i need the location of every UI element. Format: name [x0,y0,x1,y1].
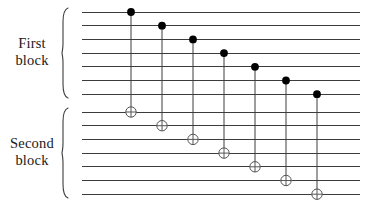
brace-first-block [62,8,68,98]
cnot-6-control-dot-icon[interactable] [282,77,290,85]
cnot-gates [126,8,322,199]
brace-second-block [62,108,68,198]
circuit-canvas [0,0,371,202]
cnot-3-control-dot-icon[interactable] [189,36,197,44]
cnot-5-control-dot-icon[interactable] [251,63,259,71]
cnot-4-control-dot-icon[interactable] [220,49,228,57]
gate-cnot-5[interactable] [250,63,260,172]
gate-cnot-4[interactable] [219,49,229,158]
gate-cnot-7[interactable] [312,90,322,199]
gate-cnot-2[interactable] [157,22,167,131]
quantum-circuit-figure: First block Second block [0,0,371,202]
gate-cnot-3[interactable] [188,36,198,145]
qubit-wires [82,12,360,194]
gate-cnot-6[interactable] [281,77,291,186]
cnot-7-control-dot-icon[interactable] [313,90,321,98]
cnot-2-control-dot-icon[interactable] [158,22,166,30]
block-braces [62,8,68,198]
cnot-1-control-dot-icon[interactable] [127,8,135,16]
gate-cnot-1[interactable] [126,8,136,117]
